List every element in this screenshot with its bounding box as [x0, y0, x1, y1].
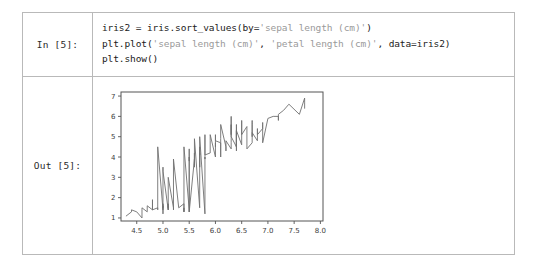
code-token: , data=iris2): [377, 38, 450, 49]
output-prompt-label: Out [5]:: [23, 77, 93, 254]
y-tick-label: 7: [111, 93, 115, 101]
code-token: ): [366, 22, 372, 33]
code-source[interactable]: iris2 = iris.sort_values(by='sepal lengt…: [102, 20, 514, 67]
input-prompt-label: In [5]:: [23, 13, 93, 76]
data-series-line: [126, 98, 304, 218]
x-tick-label: 6.5: [236, 227, 247, 235]
x-tick-label: 4.5: [131, 227, 142, 235]
input-cell-row: In [5]: iris2 = iris.sort_values(by='sep…: [23, 13, 514, 77]
x-tick-label: 7.0: [262, 227, 273, 235]
code-line-3: plt.show(): [102, 51, 514, 67]
x-tick-label: 7.5: [289, 227, 300, 235]
code-token: plt.show(): [102, 53, 158, 64]
string-token: 'petal length (cm)': [271, 38, 378, 49]
string-token: 'sepal length (cm)': [153, 38, 260, 49]
screenshot-root: In [5]: iris2 = iris.sort_values(by='sep…: [0, 0, 534, 270]
y-tick-label: 5: [111, 133, 115, 141]
code-editor-area[interactable]: iris2 = iris.sort_values(by='sepal lengt…: [93, 13, 514, 76]
code-line-2: plt.plot('sepal length (cm)', 'petal len…: [102, 36, 514, 52]
y-tick-label: 4: [111, 154, 116, 162]
x-tick-label: 5.0: [157, 227, 168, 235]
y-tick-label: 2: [111, 194, 115, 202]
x-tick-label: 6.0: [210, 227, 221, 235]
matplotlib-figure: 4.55.05.56.06.57.07.58.01234567: [103, 86, 329, 241]
x-tick-label: 8.0: [315, 227, 326, 235]
y-tick-label: 3: [111, 174, 115, 182]
line-chart: 4.55.05.56.06.57.07.58.01234567: [103, 86, 329, 241]
output-cell-row: Out [5]: 4.55.05.56.06.57.07.58.01234567: [23, 77, 514, 254]
output-area: 4.55.05.56.06.57.07.58.01234567: [93, 77, 514, 254]
code-line-1: iris2 = iris.sort_values(by='sepal lengt…: [102, 20, 514, 36]
code-token: iris2 = iris.sort_values(by=: [102, 22, 259, 33]
notebook-cell-table: In [5]: iris2 = iris.sort_values(by='sep…: [22, 12, 515, 255]
string-token: 'sepal length (cm)': [259, 22, 366, 33]
x-tick-label: 5.5: [184, 227, 195, 235]
axes-frame: [121, 92, 323, 221]
code-token: plt.plot(: [102, 38, 153, 49]
y-tick-label: 1: [111, 214, 115, 222]
y-tick-label: 6: [111, 113, 116, 121]
code-token: ,: [259, 38, 270, 49]
